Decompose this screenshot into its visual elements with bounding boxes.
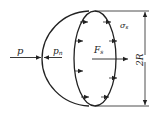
force-label: Fs [93, 45, 103, 55]
stress-label: σs [120, 21, 128, 30]
diameter-label: 2R [135, 53, 145, 67]
hemisphere-outline [42, 11, 89, 106]
pressure-label: p [17, 45, 24, 56]
normal-pressure-label: pn [53, 46, 63, 56]
stress-arrows [75, 22, 117, 97]
hemisphere-diagram: p pn Fs σs 2R [0, 0, 160, 113]
section-ellipse [74, 11, 116, 106]
